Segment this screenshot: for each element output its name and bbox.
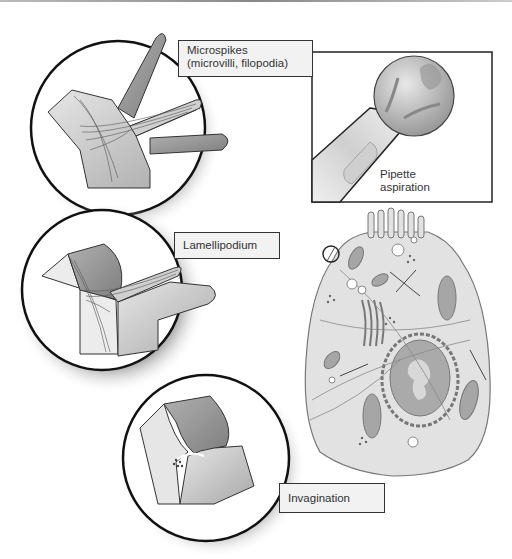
lamellipodium-label: Lamellipodium <box>174 232 280 259</box>
invagination-panel <box>122 374 306 558</box>
microspikes-label: Microspikes (microvilli, filopodia) <box>178 40 313 77</box>
lamellipodium-panel <box>14 202 216 394</box>
cell-panel <box>305 208 490 476</box>
microspikes-label-line2: (microvilli, filopodia) <box>187 57 304 70</box>
lamellipodium-label-text: Lamellipodium <box>183 239 257 251</box>
pipette-label-line2: aspiration <box>380 181 430 194</box>
pipette-label-line1: Pipette <box>380 168 430 181</box>
invagination-label: Invagination <box>279 483 385 513</box>
cell-surface-diagram <box>0 0 512 559</box>
pipette-label: Pipette aspiration <box>380 168 430 194</box>
microspikes-label-line1: Microspikes <box>187 44 304 57</box>
invagination-label-text: Invagination <box>288 492 350 504</box>
